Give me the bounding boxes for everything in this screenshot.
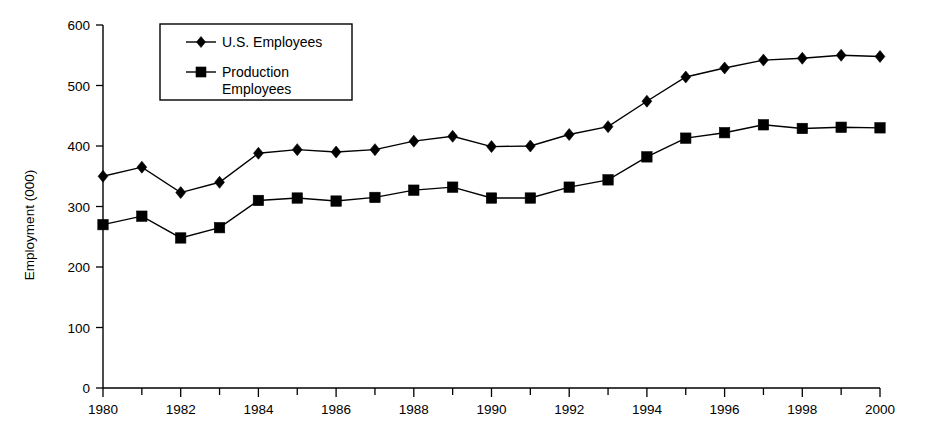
data-point-diamond: [487, 141, 497, 153]
legend-label-us-employees: U.S. Employees: [222, 34, 322, 50]
data-point-diamond: [797, 52, 807, 64]
data-point-square: [98, 219, 108, 229]
y-tick-label-500: 500: [67, 79, 90, 94]
data-point-square: [603, 175, 613, 185]
data-point-diamond: [642, 95, 652, 107]
data-point-square: [525, 193, 535, 203]
x-tick-label-1982: 1982: [166, 402, 196, 417]
data-point-square: [137, 211, 147, 221]
data-point-diamond: [137, 161, 147, 173]
square-marker-icon: [196, 67, 206, 77]
y-tick-label-600: 600: [67, 18, 90, 33]
data-point-diamond: [875, 50, 885, 62]
data-point-square: [447, 182, 457, 192]
x-tick-label-1998: 1998: [787, 402, 817, 417]
data-point-diamond: [409, 135, 419, 147]
x-tick-label-1990: 1990: [476, 402, 506, 417]
y-tick-label-0: 0: [82, 381, 90, 396]
data-point-square: [409, 185, 419, 195]
data-point-square: [875, 123, 885, 133]
data-point-square: [758, 120, 768, 130]
data-point-diamond: [176, 187, 186, 199]
x-tick-label-2000: 2000: [865, 402, 895, 417]
legend: U.S. Employees Production Employees: [160, 24, 352, 100]
data-point-diamond: [215, 176, 225, 188]
data-point-diamond: [603, 121, 613, 133]
y-tick-label-300: 300: [67, 200, 90, 215]
x-tick-label-1988: 1988: [399, 402, 429, 417]
y-axis-ticks: 600 500 400 300 200 100 0: [67, 18, 103, 396]
y-tick-label-400: 400: [67, 139, 90, 154]
data-point-diamond: [370, 144, 380, 156]
data-point-square: [564, 182, 574, 192]
data-point-square: [176, 233, 186, 243]
data-point-diamond: [525, 140, 535, 152]
data-point-square: [214, 222, 224, 232]
chart-figure: 600 500 400 300 200 100 0 Employment (00…: [0, 0, 926, 448]
x-tick-label-1994: 1994: [632, 402, 663, 417]
y-axis-title: Employment (000): [22, 170, 37, 280]
data-point-square: [836, 122, 846, 132]
data-point-diamond: [331, 146, 341, 158]
data-point-diamond: [292, 144, 302, 156]
data-point-square: [253, 195, 263, 205]
x-tick-label-1980: 1980: [88, 402, 118, 417]
x-tick-label-1986: 1986: [321, 402, 351, 417]
y-tick-label-100: 100: [67, 321, 90, 336]
legend-label-production-employees: Production: [222, 64, 289, 80]
data-point-diamond: [564, 129, 574, 141]
data-point-diamond: [98, 170, 108, 182]
data-point-diamond: [720, 62, 730, 74]
data-point-square: [370, 192, 380, 202]
data-point-square: [292, 193, 302, 203]
data-point-square: [681, 133, 691, 143]
x-tick-label-1992: 1992: [554, 402, 584, 417]
x-tick-label-1984: 1984: [243, 402, 274, 417]
data-point-diamond: [836, 49, 846, 61]
data-point-square: [486, 193, 496, 203]
data-point-diamond: [253, 147, 263, 159]
x-tick-label-1996: 1996: [710, 402, 740, 417]
data-point-square: [719, 127, 729, 137]
data-point-square: [331, 196, 341, 206]
legend-label-production-employees-line2: Employees: [222, 81, 291, 97]
line-chart: 600 500 400 300 200 100 0 Employment (00…: [0, 0, 926, 448]
data-point-diamond: [448, 130, 458, 142]
x-axis-ticks: 1980 1982 1984 1986 1988 1990 1992 1994 …: [88, 388, 895, 417]
data-point-square: [797, 123, 807, 133]
data-point-diamond: [681, 71, 691, 83]
data-point-square: [642, 152, 652, 162]
data-point-diamond: [759, 54, 769, 66]
y-tick-label-200: 200: [67, 260, 90, 275]
